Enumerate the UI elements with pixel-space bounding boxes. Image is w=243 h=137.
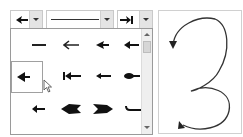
arrow-thin-left-icon	[95, 71, 113, 81]
arrow-left-icon	[15, 15, 29, 25]
arrow-chevron-right-icon	[93, 104, 115, 114]
scroll-thumb[interactable]	[143, 41, 151, 53]
curved-connector-shape[interactable]	[159, 11, 243, 135]
arrow-style-list[interactable]	[10, 28, 153, 135]
chevron-down-icon[interactable]	[29, 11, 42, 28]
chevron-down-icon[interactable]	[100, 11, 113, 28]
arrow-bar-left-icon	[63, 71, 83, 81]
arrow-chevron-left-option[interactable]	[59, 96, 91, 128]
arrow-open-left-icon	[63, 40, 81, 50]
end-arrow-dropdown[interactable]	[117, 10, 153, 29]
scroll-down-icon[interactable]	[143, 125, 151, 131]
scroll-up-icon[interactable]	[143, 32, 151, 38]
none-line-option[interactable]	[29, 32, 61, 64]
arrow-round-left-icon	[123, 71, 141, 81]
arrow-right-bar-icon	[120, 15, 134, 25]
mouse-cursor-icon	[43, 79, 53, 93]
arrow-filled-left-short-icon	[16, 72, 34, 82]
line-icon	[31, 40, 49, 50]
solid-line-preview	[51, 19, 99, 20]
chevron-down-icon[interactable]	[139, 11, 152, 28]
arrow-filled-left-long-icon	[123, 40, 141, 50]
arrow-filled-left-short-option[interactable]	[11, 61, 43, 93]
arrow-small-left-icon	[31, 104, 49, 114]
list-scrollbar[interactable]	[141, 29, 152, 134]
arrow-open-left-option[interactable]	[61, 32, 93, 64]
line-style-dropdown[interactable]	[46, 10, 114, 29]
arrow-chevron-left-icon	[61, 104, 83, 114]
connector-preview-canvas	[158, 10, 242, 134]
start-arrow-dropdown[interactable]	[10, 10, 43, 29]
arrow-bar-left-option[interactable]	[61, 63, 93, 95]
arrow-small-left-option[interactable]	[29, 96, 61, 128]
arrow-chevron-right-option[interactable]	[91, 96, 123, 128]
arrow-filled-left-icon	[95, 40, 113, 50]
